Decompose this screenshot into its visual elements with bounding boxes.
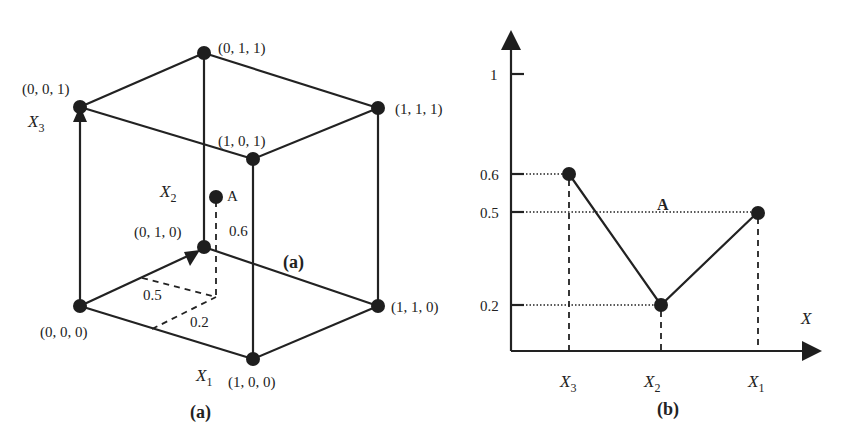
projection-label-06: 0.6 <box>229 223 248 239</box>
vertex-011 <box>197 46 211 60</box>
x-axis-arrow-icon <box>802 341 822 361</box>
label-101: (1, 0, 1) <box>218 133 266 150</box>
y-tick-label-06: 0.6 <box>480 167 499 183</box>
panel-a-cube: (0, 0, 0) (1, 0, 0) (0, 1, 0) (1, 1, 0) … <box>22 40 443 423</box>
point-a <box>209 190 223 204</box>
figure-canvas: (0, 0, 0) (1, 0, 0) (0, 1, 0) (1, 1, 0) … <box>0 0 848 448</box>
axis-label-x3: X3 <box>27 112 44 135</box>
series-a-line <box>569 174 758 305</box>
y-tick-label-02: 0.2 <box>480 298 499 314</box>
x-tick-label-x1: X1 <box>747 372 764 395</box>
data-point-x2 <box>654 298 668 312</box>
axis-label-x1: X1 <box>195 366 212 389</box>
label-010: (0, 1, 0) <box>134 224 182 241</box>
label-110: (1, 1, 0) <box>391 299 439 316</box>
label-000: (0, 0, 0) <box>40 324 88 341</box>
projection-label-05: 0.5 <box>143 287 162 303</box>
edge-x1-axis <box>80 306 253 359</box>
label-001: (0, 0, 1) <box>22 81 70 98</box>
x-axis-label: X <box>800 309 812 328</box>
x-tick-label-x3: X3 <box>559 372 576 395</box>
edge-001-011 <box>80 53 204 107</box>
y-tick-label-05: 0.5 <box>480 205 499 221</box>
y-tick-label-1: 1 <box>490 67 498 83</box>
vertex-100 <box>246 352 260 366</box>
series-a-label: A <box>657 196 669 213</box>
edge-011-111 <box>204 53 378 108</box>
panel-a-caption: (a) <box>190 402 211 423</box>
vertex-010 <box>197 240 211 254</box>
label-111: (1, 1, 1) <box>395 101 443 118</box>
vertex-000 <box>73 299 87 313</box>
data-point-x3 <box>562 167 576 181</box>
label-100: (1, 0, 0) <box>228 374 276 391</box>
projection-label-02: 0.2 <box>190 314 209 330</box>
panel-b-caption: (b) <box>657 399 679 420</box>
y-axis-arrow-icon <box>501 30 521 50</box>
panel-a-inner-caption: (a) <box>283 252 304 273</box>
axis-label-x2: X2 <box>159 182 176 205</box>
label-011: (0, 1, 1) <box>218 40 266 57</box>
x2-arrow-icon <box>184 250 200 266</box>
point-a-label: A <box>227 188 238 204</box>
vertex-101 <box>246 152 260 166</box>
edge-x2-axis <box>80 254 192 306</box>
panel-b-chart: 1 0.6 0.5 0.2 A X X3 X2 X1 (b) <box>480 30 822 420</box>
vertex-001 <box>73 100 87 114</box>
x-tick-label-x2: X2 <box>643 372 660 395</box>
vertex-110 <box>371 299 385 313</box>
vertex-111 <box>371 101 385 115</box>
edge-101-111 <box>253 108 378 159</box>
edge-100-110 <box>253 306 378 359</box>
data-point-x1 <box>751 206 765 220</box>
